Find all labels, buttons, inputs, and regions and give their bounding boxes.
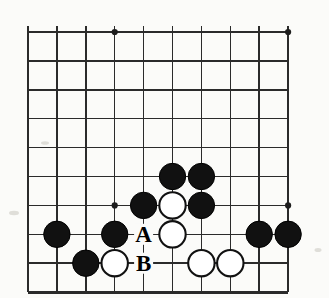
marker-a-label: A <box>135 222 152 247</box>
star-point-bottom-right <box>285 202 291 208</box>
stone-black-black-f6 <box>159 163 185 189</box>
go-board-diagram: AB <box>0 0 329 298</box>
stone-white-white-g9 <box>188 250 214 276</box>
stone-black-black-b8 <box>44 221 70 247</box>
stone-white-white-d9 <box>102 250 128 276</box>
stone-black-black-g6 <box>188 163 214 189</box>
marker-b: B <box>134 251 153 276</box>
stone-white-white-h9 <box>217 250 243 276</box>
stone-white-white-f8 <box>159 221 185 247</box>
star-point-bottom-left <box>112 202 118 208</box>
board-grid <box>28 26 288 292</box>
marker-b-label: B <box>136 251 151 276</box>
star-point-top-left <box>112 29 118 35</box>
stone-black-black-d8 <box>102 221 128 247</box>
go-board-canvas: AB <box>0 0 329 298</box>
stone-white-white-f7 <box>159 192 185 218</box>
stone-black-black-j8 <box>275 221 301 247</box>
stone-black-black-c9 <box>73 250 99 276</box>
stone-black-black-g7 <box>188 192 214 218</box>
stone-black-black-e7 <box>130 192 156 218</box>
marker-a: A <box>134 222 153 247</box>
star-point-top-right <box>285 29 291 35</box>
stone-black-black-i8 <box>246 221 272 247</box>
